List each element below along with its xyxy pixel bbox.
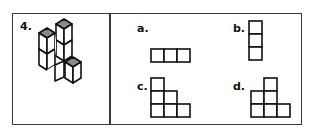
question-number: 4. <box>20 21 32 32</box>
option-a-shape[interactable] <box>150 48 192 63</box>
cube-stack-figure <box>34 18 86 84</box>
question-divider <box>109 13 111 125</box>
option-b-shape[interactable] <box>248 20 264 63</box>
option-b-label: b. <box>233 23 245 34</box>
option-c-label: c. <box>137 81 148 92</box>
option-c-shape[interactable] <box>150 77 192 120</box>
option-d-label: d. <box>233 81 245 92</box>
option-a-label: a. <box>137 23 149 34</box>
option-d-shape[interactable] <box>250 77 292 120</box>
